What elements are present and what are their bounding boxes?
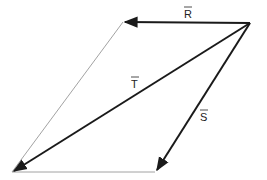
- edge-left: [12, 22, 123, 172]
- vector-diagram: R T S: [0, 0, 267, 180]
- svg-text:S: S: [200, 111, 207, 123]
- label-s: S: [200, 110, 208, 123]
- vector-t: [14, 23, 250, 171]
- svg-text:R: R: [184, 8, 192, 20]
- label-t: T: [131, 77, 139, 90]
- vector-s: [157, 23, 250, 170]
- svg-text:T: T: [131, 78, 138, 90]
- label-r: R: [184, 7, 192, 20]
- vector-r: [125, 22, 250, 23]
